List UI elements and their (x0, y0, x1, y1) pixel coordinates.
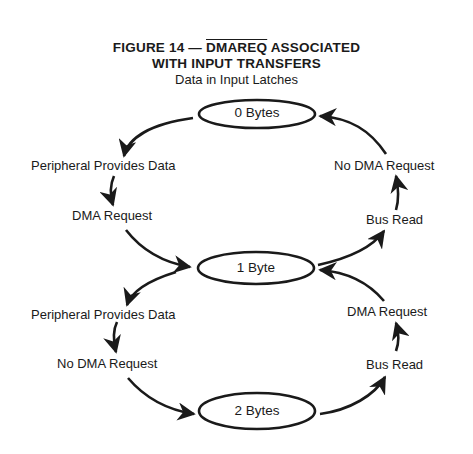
label-dma-request-left: DMA Request (72, 208, 152, 223)
arrow-1-to-peripheral (127, 272, 176, 305)
label-no-dma-request-left: No DMA Request (57, 356, 157, 371)
arrow-2-to-busread (320, 377, 385, 414)
arrow-busread-to-dmareq (396, 323, 398, 351)
arrow-dmareq-to-1 (126, 230, 190, 267)
node-1-byte-label: 1 Byte (198, 260, 314, 275)
arrow-dmareq-to-1-right (320, 270, 384, 301)
label-bus-read-bottom: Bus Read (366, 357, 423, 372)
label-peripheral-provides-data-top: Peripheral Provides Data (31, 158, 176, 173)
label-dma-request-right: DMA Request (347, 304, 427, 319)
arrow-nodmareq-to-2 (128, 378, 194, 414)
arrow-busread-to-nodmareq (396, 176, 398, 210)
state-diagram (0, 0, 473, 454)
arrow-nodmareq-to-0 (320, 116, 386, 154)
node-2-bytes-label: 2 Bytes (199, 403, 315, 418)
label-bus-read-top: Bus Read (366, 212, 423, 227)
label-no-dma-request-right: No DMA Request (334, 158, 434, 173)
arrow-0-to-peripheral (124, 118, 193, 156)
arrow-peripheral-to-dmareq (111, 176, 114, 205)
node-0-bytes-label: 0 Bytes (199, 105, 315, 120)
label-peripheral-provides-data-bottom: Peripheral Provides Data (31, 307, 176, 322)
arrow-1-to-busread (318, 231, 384, 265)
arrow-peripheral-to-nodmareq (114, 322, 117, 352)
